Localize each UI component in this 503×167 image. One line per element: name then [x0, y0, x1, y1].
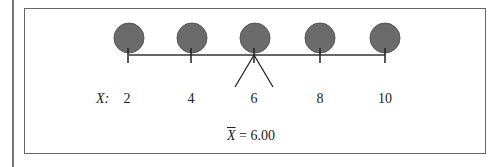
value-label-10: 10 — [378, 91, 392, 107]
weight-8 — [305, 23, 335, 63]
mean-symbol: X — [227, 128, 236, 143]
weight-2 — [114, 23, 144, 63]
mean-label: X = 6.00 — [227, 128, 275, 144]
value-label-6: 6 — [251, 91, 258, 107]
weight-4 — [177, 23, 207, 63]
mean-value: = 6.00 — [236, 128, 275, 143]
value-label-8: 8 — [317, 91, 324, 107]
axis-label: X: — [96, 91, 109, 107]
weight-10 — [370, 23, 400, 63]
value-label-4: 4 — [188, 91, 195, 107]
value-label-2: 2 — [124, 91, 131, 107]
